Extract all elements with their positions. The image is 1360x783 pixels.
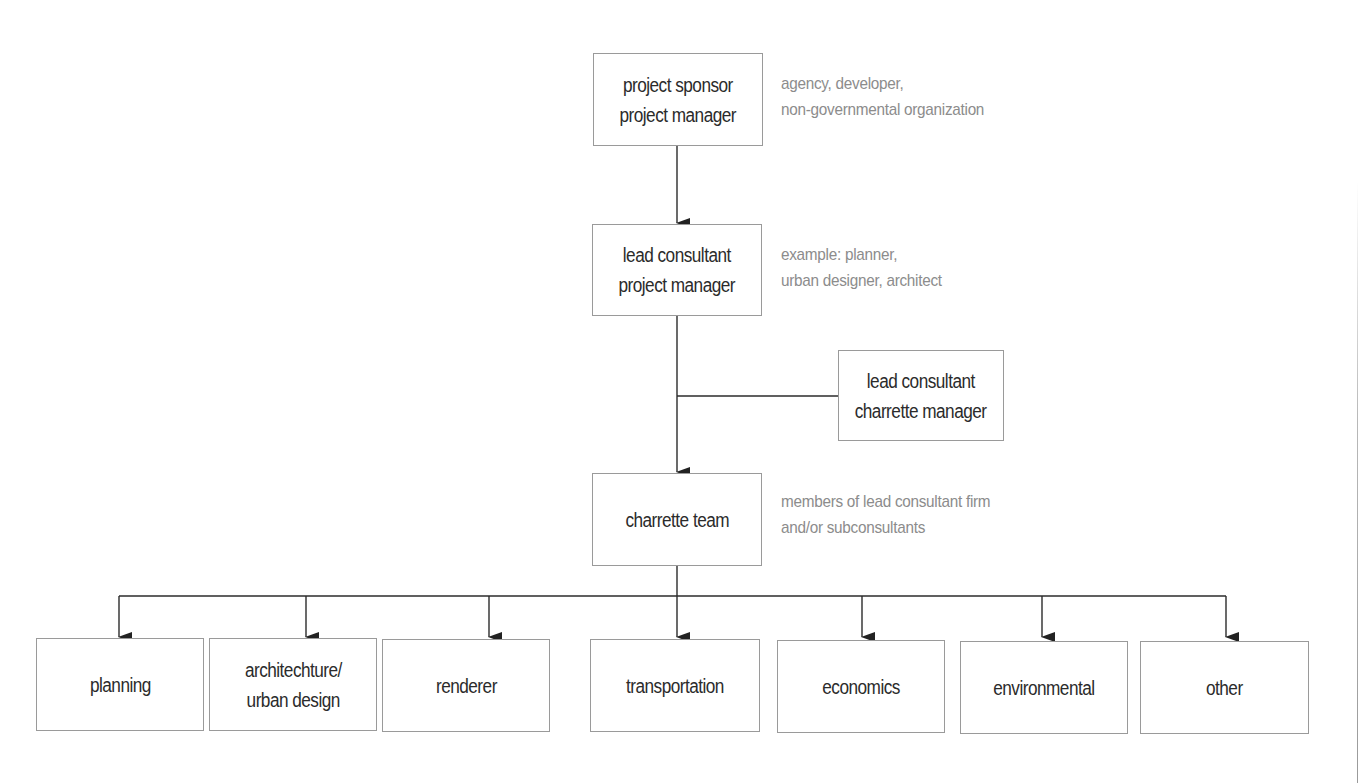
box-architecture-urban-design: architechture/ urban design: [209, 638, 377, 731]
box-transportation: transportation: [590, 639, 760, 732]
box-line: charrette team: [625, 505, 729, 535]
box-line: lead consultant: [867, 366, 975, 396]
box-renderer: renderer: [382, 639, 550, 732]
box-line: lead consultant: [623, 240, 731, 270]
box-other: other: [1140, 641, 1309, 734]
box-charrette-manager: lead consultant charrette manager: [838, 350, 1004, 441]
page-edge-line: [1357, 180, 1358, 783]
box-line: charrette manager: [855, 396, 987, 426]
box-lead-consultant: lead consultant project manager: [592, 224, 762, 316]
box-environmental: environmental: [960, 641, 1128, 734]
box-line: project manager: [619, 270, 736, 300]
note-lead-consultant: example: planner, urban designer, archit…: [781, 242, 942, 294]
box-charrette-team: charrette team: [592, 473, 762, 566]
box-economics: economics: [777, 640, 945, 733]
box-planning: planning: [36, 638, 204, 731]
org-chart: project sponsor project manager agency, …: [0, 0, 1360, 783]
note-charrette-team: members of lead consultant firm and/or s…: [781, 489, 990, 541]
box-line: project sponsor: [623, 70, 733, 100]
note-project-sponsor: agency, developer, non-governmental orga…: [781, 71, 984, 123]
box-project-sponsor: project sponsor project manager: [593, 53, 763, 146]
box-line: project manager: [620, 100, 737, 130]
